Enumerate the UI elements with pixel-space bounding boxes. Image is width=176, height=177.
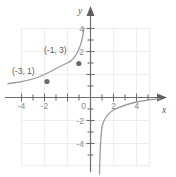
origin-label: 0 — [81, 101, 86, 111]
x-tick-label--2: -2 — [41, 101, 49, 111]
point-marker-a — [76, 61, 81, 66]
y-axis — [87, 6, 95, 172]
point-label-b: (-3, 1) — [12, 66, 35, 76]
x-tick-label-4: 4 — [134, 101, 139, 111]
y-axis-label: y — [77, 6, 83, 16]
x-axis-label: x — [161, 105, 167, 115]
coordinate-plane: (-1, 3) (-3, 1) -4 -2 2 4 4 2 -2 -4 0 x … — [0, 0, 176, 177]
x-tick-label--4: -4 — [18, 101, 26, 111]
x-tick-label-2: 2 — [111, 101, 116, 111]
y-tick-label-2: 2 — [79, 47, 84, 57]
graph-figure: (-1, 3) (-3, 1) -4 -2 2 4 4 2 -2 -4 0 x … — [0, 0, 176, 177]
y-tick-label--4: -4 — [76, 139, 84, 149]
y-tick-label--2: -2 — [76, 116, 84, 126]
point-label-a: (-1, 3) — [44, 45, 67, 55]
curve-right-branch — [100, 99, 161, 174]
y-tick-label-4: 4 — [79, 24, 84, 34]
point-marker-b — [44, 79, 49, 84]
grid-lines — [21, 28, 150, 166]
